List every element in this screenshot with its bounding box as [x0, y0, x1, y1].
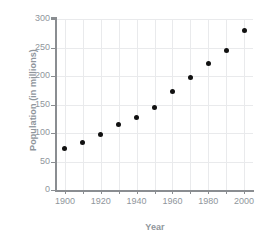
y-tick-label: 200: [3, 70, 50, 80]
y-axis-spine: [55, 17, 57, 191]
x-tick-label: 1920: [81, 196, 121, 206]
gridline-horizontal: [56, 162, 253, 163]
x-tick-label: 1980: [188, 196, 228, 206]
y-axis-tick-labels: 050100150200250300: [0, 0, 50, 250]
x-axis-tick-labels: 190019201940196019802000: [56, 196, 253, 214]
scatter-chart: Population (in millions) 050100150200250…: [0, 0, 280, 250]
x-tick-label: 1940: [117, 196, 157, 206]
y-tick-label: 150: [3, 99, 50, 109]
x-axis-spine: [55, 190, 254, 192]
gridline-horizontal: [56, 19, 253, 20]
y-tick-label: 0: [3, 184, 50, 194]
gridline-horizontal: [56, 133, 253, 134]
y-axis-top-tick: [51, 17, 56, 19]
x-tick-label: 1960: [152, 196, 192, 206]
y-tick-label: 50: [3, 156, 50, 166]
data-point: [224, 48, 229, 53]
plot-area: [56, 19, 253, 190]
y-tick-label: 100: [3, 127, 50, 137]
x-tick-label: 1900: [45, 196, 85, 206]
data-point: [206, 61, 211, 66]
gridline-horizontal: [56, 76, 253, 77]
data-point: [152, 105, 157, 110]
x-tick-label: 2000: [224, 196, 264, 206]
x-axis-title: Year: [56, 222, 254, 232]
data-point: [188, 75, 193, 80]
data-point: [242, 28, 247, 33]
y-tick-label: 300: [3, 13, 50, 23]
y-tick-label: 250: [3, 42, 50, 52]
